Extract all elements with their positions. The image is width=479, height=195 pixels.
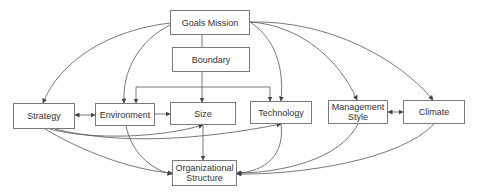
node-climate: Climate [403, 100, 465, 124]
edge-goals-technology [250, 22, 282, 101]
diagram-canvas: Goals Mission Boundary Strategy Environm… [0, 0, 479, 195]
node-label-line1: Organizational [175, 163, 233, 173]
edge-goals-climate [250, 22, 433, 100]
node-strategy: Strategy [13, 103, 75, 129]
node-label: Goals Mission [182, 18, 239, 28]
node-label-line2: Structure [186, 173, 223, 183]
edge-strategy-technology [55, 124, 281, 139]
edge-goals-management [250, 22, 357, 100]
edge-boundary-technology [202, 87, 270, 101]
node-technology: Technology [250, 101, 312, 124]
edge-climate-orgstructure [237, 124, 434, 174]
node-label: Technology [258, 108, 304, 118]
node-organizational-structure: Organizational Structure [172, 160, 237, 186]
node-label: Size [194, 109, 212, 119]
edge-goals-environment [124, 25, 170, 103]
node-label: Climate [419, 107, 450, 117]
edge-management-orgstructure [237, 124, 358, 173]
node-environment: Environment [95, 103, 155, 126]
edge-goals-strategy [43, 23, 170, 103]
node-label-line1: Management [332, 102, 385, 112]
node-management-style: Management Style [328, 100, 388, 124]
node-size: Size [170, 102, 236, 125]
node-boundary: Boundary [172, 47, 250, 72]
node-goals-mission: Goals Mission [170, 10, 250, 35]
node-label: Boundary [192, 55, 231, 65]
node-label: Strategy [27, 111, 61, 121]
edge-environment-orgstructure [126, 125, 172, 174]
node-label: Environment [100, 110, 151, 120]
edge-boundary-environment [136, 87, 202, 103]
node-label-line2: Style [348, 112, 368, 122]
edge-technology-orgstructure [237, 124, 282, 173]
